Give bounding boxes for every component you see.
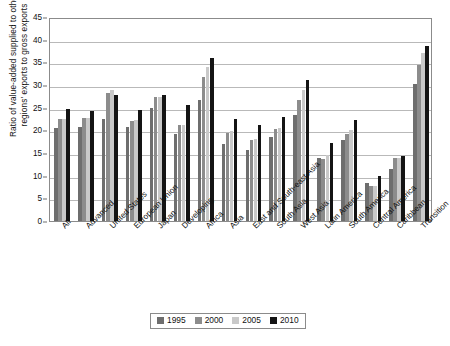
y-tick-label: 25 (33, 105, 42, 113)
y-tick-mark (43, 154, 47, 155)
y-tick-label: 5 (37, 195, 42, 203)
bar-group (317, 19, 333, 221)
bar (178, 125, 182, 221)
bar (78, 127, 82, 221)
bar (397, 158, 401, 221)
bar-group (78, 19, 94, 221)
bar-group (222, 19, 238, 221)
legend-swatch (270, 317, 277, 324)
bar (258, 125, 262, 221)
bar (174, 134, 178, 221)
y-tick-mark (43, 40, 47, 41)
y-tick-mark (43, 63, 47, 64)
bar (90, 111, 94, 221)
legend-label: 2000 (205, 316, 224, 325)
bar (250, 140, 254, 221)
bar (114, 95, 118, 221)
bar (86, 118, 90, 221)
x-axis-category-labels: AllAdvancedUnited StatesEuropean UnionJa… (49, 224, 432, 304)
bar (425, 46, 429, 221)
bar-group (246, 19, 262, 221)
legend-label: 2005 (242, 316, 261, 325)
bar (326, 155, 330, 221)
plot-area (49, 18, 432, 222)
y-tick-label: 20 (33, 127, 42, 135)
legend-swatch (195, 317, 202, 324)
legend-label: 1995 (167, 316, 186, 325)
bar (182, 125, 186, 221)
y-tick-label: 0 (37, 218, 42, 226)
y-tick-label: 35 (33, 59, 42, 67)
legend-swatch (232, 317, 239, 324)
bar-group (198, 19, 214, 221)
bar-group (54, 19, 70, 221)
bar (421, 53, 425, 221)
y-tick-label: 40 (33, 37, 42, 45)
bar (230, 131, 234, 221)
y-tick-mark (43, 131, 47, 132)
y-tick-label: 45 (33, 14, 42, 22)
y-tick-mark (43, 108, 47, 109)
bar (330, 143, 334, 221)
bar (66, 109, 70, 221)
bar-group (102, 19, 118, 221)
bar (354, 120, 358, 221)
bar (82, 118, 86, 221)
bar (413, 84, 417, 221)
bar-group (150, 19, 166, 221)
y-tick-label: 15 (33, 150, 42, 158)
bar (246, 150, 250, 221)
y-tick-mark (43, 86, 47, 87)
bar (222, 144, 226, 221)
legend-item: 1995 (157, 316, 186, 325)
y-axis-ticks: 051015202530354045 (0, 18, 47, 222)
legend-item: 2010 (270, 316, 299, 325)
bar (226, 133, 230, 221)
legend-swatch (157, 317, 164, 324)
y-tick-mark (43, 199, 47, 200)
y-tick-mark (43, 176, 47, 177)
bar (234, 119, 238, 221)
bar (254, 139, 258, 221)
legend-label: 2010 (280, 316, 299, 325)
legend-item: 2000 (195, 316, 224, 325)
bar (186, 105, 190, 221)
bar-series-container (50, 19, 431, 221)
y-tick-label: 30 (33, 82, 42, 90)
chart-legend: 1995200020052010 (150, 313, 306, 329)
legend-item: 2005 (232, 316, 261, 325)
bar (58, 119, 62, 221)
y-tick-mark (43, 18, 47, 19)
bar (62, 119, 66, 221)
y-tick-mark (43, 222, 47, 223)
y-tick-label: 10 (33, 173, 42, 181)
bar (54, 128, 58, 221)
